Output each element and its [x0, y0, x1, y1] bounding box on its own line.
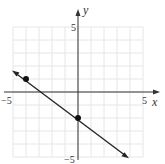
plotted-line: [16, 74, 125, 156]
x-max-tick: 5: [142, 95, 147, 106]
x-min-tick: −5: [1, 95, 12, 106]
y-axis-arrow-icon: [76, 9, 81, 16]
x-axis-arrow-icon: [153, 90, 160, 95]
point-neg4-1: [23, 76, 29, 82]
coordinate-plane: x y −5 5 5 −5: [0, 0, 165, 164]
y-min-tick: −5: [64, 154, 75, 164]
y-axis-label: y: [82, 3, 89, 17]
y-max-tick: 5: [71, 22, 76, 33]
point-0-neg2: [75, 115, 81, 121]
x-axis-label: x: [151, 95, 158, 109]
